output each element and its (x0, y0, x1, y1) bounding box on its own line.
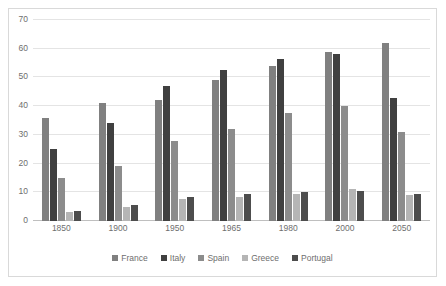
bar (131, 205, 138, 221)
chart-container: 010203040506070 185019001950196519802000… (0, 0, 446, 286)
bar (163, 86, 170, 221)
bar (171, 141, 178, 221)
bar (414, 194, 421, 221)
x-axis-tick-label: 1965 (203, 224, 260, 233)
legend-swatch-icon (292, 255, 298, 261)
bar (187, 197, 194, 221)
legend-label: Spain (207, 254, 229, 263)
bar (341, 106, 348, 221)
bar (42, 118, 49, 221)
bar (333, 54, 340, 221)
legend-item[interactable]: Spain (198, 254, 229, 263)
x-axis-tick-label: 1950 (146, 224, 203, 233)
bar (155, 100, 162, 221)
y-axis-tick-label: 40 (19, 101, 28, 110)
bar (58, 178, 65, 221)
bar (66, 212, 73, 221)
bar (269, 66, 276, 221)
bar-group (373, 20, 430, 221)
bar (285, 113, 292, 221)
bars-layer (33, 20, 430, 221)
bar (179, 199, 186, 221)
bar-group (203, 20, 260, 221)
legend-item[interactable]: France (112, 254, 147, 263)
bar (293, 194, 300, 221)
y-axis-tick-label: 10 (19, 187, 28, 196)
bar-group (90, 20, 147, 221)
bar (349, 189, 356, 221)
bar (50, 149, 57, 221)
chart-legend: FranceItalySpainGreecePortugal (8, 254, 437, 263)
bar (123, 207, 130, 221)
legend-label: Portugal (301, 254, 333, 263)
bar (382, 43, 389, 221)
bar (406, 195, 413, 221)
legend-swatch-icon (161, 255, 167, 261)
bar (390, 98, 397, 221)
legend-label: France (121, 254, 147, 263)
y-axis-tick-label: 30 (19, 130, 28, 139)
x-axis-labels: 1850190019501965198020002050 (33, 224, 430, 233)
legend-item[interactable]: Italy (161, 254, 186, 263)
bar (398, 132, 405, 221)
bar (277, 59, 284, 221)
y-axis-tick-label: 60 (19, 43, 28, 52)
bar-group (146, 20, 203, 221)
legend-label: Italy (170, 254, 186, 263)
x-axis-tick-label: 2050 (373, 224, 430, 233)
legend-swatch-icon (242, 255, 248, 261)
bar (107, 123, 114, 221)
bar (301, 192, 308, 221)
bar (244, 194, 251, 221)
bar-group (33, 20, 90, 221)
x-axis-tick-label: 1980 (260, 224, 317, 233)
bar (325, 52, 332, 221)
x-axis-tick-label: 1900 (90, 224, 147, 233)
x-axis-tick-label: 1850 (33, 224, 90, 233)
legend-item[interactable]: Greece (242, 254, 279, 263)
bar (115, 166, 122, 221)
legend-swatch-icon (198, 255, 204, 261)
bar (99, 103, 106, 221)
bar (74, 211, 81, 221)
legend-label: Greece (251, 254, 279, 263)
bar (357, 191, 364, 221)
legend-swatch-icon (112, 255, 118, 261)
y-axis-tick-label: 70 (19, 15, 28, 24)
legend-item[interactable]: Portugal (292, 254, 333, 263)
bar (228, 129, 235, 221)
bar (220, 70, 227, 221)
bar-group (317, 20, 374, 221)
y-axis-tick-label: 20 (19, 158, 28, 167)
plot-area: 010203040506070 (33, 20, 430, 221)
bar-group (260, 20, 317, 221)
x-axis-tick-label: 2000 (317, 224, 374, 233)
bar (212, 80, 219, 221)
y-axis-tick-label: 50 (19, 72, 28, 81)
y-axis-tick-label: 0 (23, 216, 28, 225)
bar (236, 197, 243, 221)
